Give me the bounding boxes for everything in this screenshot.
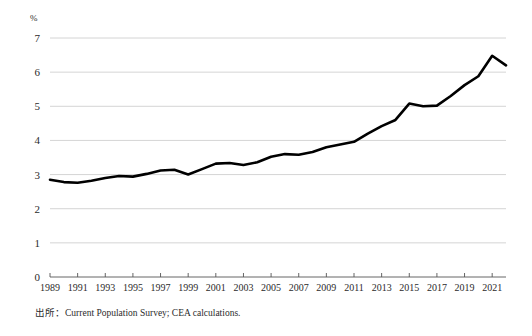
x-tick-label: 2021 bbox=[482, 282, 502, 293]
y-tick-label: 2 bbox=[35, 203, 41, 215]
y-tick-label: 7 bbox=[35, 32, 41, 44]
y-tick-label: 5 bbox=[35, 100, 41, 112]
series-polyline bbox=[50, 56, 506, 183]
source-note: 出所：Current Population Survey; CEA calcul… bbox=[35, 305, 240, 319]
y-tick-label: 6 bbox=[35, 66, 41, 78]
x-tick-label: 2007 bbox=[289, 282, 309, 293]
data-series-line bbox=[50, 56, 506, 183]
y-axis-tick-labels: 01234567 bbox=[35, 32, 41, 283]
x-tick-label: 2009 bbox=[316, 282, 336, 293]
chart-figure: % 01234567 19891991199319951997199920012… bbox=[0, 0, 532, 336]
x-tick-label: 2019 bbox=[455, 282, 475, 293]
x-tick-label: 1991 bbox=[68, 282, 88, 293]
x-tick-label: 1999 bbox=[178, 282, 198, 293]
x-axis-tick-labels: 1989199119931995199719992001200320052007… bbox=[40, 282, 502, 293]
line-chart-canvas: 01234567 1989199119931995199719992001200… bbox=[0, 0, 532, 336]
x-tick-label: 1989 bbox=[40, 282, 60, 293]
y-tick-label: 3 bbox=[35, 169, 41, 181]
x-tick-label: 2001 bbox=[206, 282, 226, 293]
y-tick-label: 4 bbox=[35, 134, 41, 146]
x-tick-label: 2011 bbox=[344, 282, 364, 293]
x-axis-line-and-ticks bbox=[50, 273, 506, 277]
y-tick-label: 1 bbox=[35, 237, 41, 249]
x-tick-label: 2017 bbox=[427, 282, 447, 293]
x-tick-label: 2015 bbox=[399, 282, 419, 293]
x-tick-label: 2005 bbox=[261, 282, 281, 293]
x-tick-label: 1995 bbox=[123, 282, 143, 293]
x-tick-label: 1993 bbox=[95, 282, 115, 293]
gridlines-group bbox=[50, 38, 506, 243]
x-tick-label: 2003 bbox=[233, 282, 253, 293]
x-tick-label: 2013 bbox=[372, 282, 392, 293]
x-tick-label: 1997 bbox=[151, 282, 171, 293]
